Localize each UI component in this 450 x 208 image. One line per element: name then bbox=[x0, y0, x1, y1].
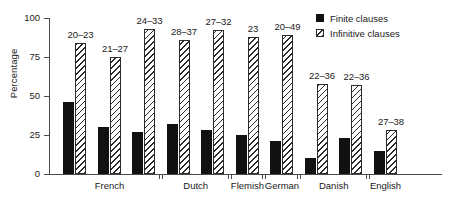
x-axis-group-separator bbox=[227, 174, 234, 179]
bar-infinitive-clauses bbox=[248, 37, 259, 174]
bar-finite-clauses bbox=[63, 102, 74, 174]
bar-infinitive-clauses bbox=[110, 57, 121, 174]
bar-infinitive-clauses bbox=[351, 85, 362, 174]
legend-label-infinitive-clauses: Infinitive clauses bbox=[330, 28, 400, 39]
y-axis-tick-label: 25 bbox=[0, 129, 40, 140]
bar-pair bbox=[305, 18, 329, 174]
bar-value-annotation: 27–32 bbox=[206, 16, 232, 27]
legend-item-infinitive-clauses: Infinitive clauses bbox=[316, 26, 444, 40]
bar-infinitive-clauses bbox=[282, 35, 293, 174]
bar-finite-clauses bbox=[167, 124, 178, 174]
x-axis-group-label-english: English bbox=[370, 180, 401, 191]
bar-value-annotation: 28–37 bbox=[171, 26, 197, 37]
bar-finite-clauses bbox=[236, 135, 247, 174]
bar-pair bbox=[270, 18, 294, 174]
x-axis-group-label-danish: Danish bbox=[319, 180, 349, 191]
x-axis-group-separator bbox=[158, 174, 165, 179]
bar-finite-clauses bbox=[201, 130, 212, 174]
bar-infinitive-clauses bbox=[75, 43, 86, 174]
x-axis-group-label-dutch: Dutch bbox=[183, 180, 208, 191]
bar-value-annotation: 23 bbox=[248, 23, 258, 34]
bar-pair bbox=[236, 18, 260, 174]
bar-infinitive-clauses bbox=[213, 30, 224, 174]
bar-finite-clauses bbox=[270, 141, 281, 174]
chart-legend: Finite clauses Infinitive clauses bbox=[316, 11, 444, 41]
x-axis-group-separator bbox=[365, 174, 372, 179]
bar-infinitive-clauses bbox=[317, 84, 328, 174]
x-axis-line bbox=[49, 174, 442, 175]
legend-swatch-hatched-icon bbox=[316, 29, 324, 37]
bar-finite-clauses bbox=[339, 138, 350, 174]
x-axis-group-separator bbox=[296, 174, 303, 179]
bar-pair bbox=[98, 18, 122, 174]
legend-swatch-solid-icon bbox=[316, 14, 324, 22]
bar-value-annotation: 24–33 bbox=[137, 15, 163, 26]
plot-area bbox=[49, 18, 442, 174]
bar-value-annotation: 20–23 bbox=[68, 29, 94, 40]
y-axis-tick-label: 0 bbox=[0, 168, 40, 179]
bar-finite-clauses bbox=[305, 158, 316, 174]
y-axis-tick-label: 75 bbox=[0, 51, 40, 62]
bar-infinitive-clauses bbox=[386, 130, 397, 174]
bar-value-annotation: 22–36 bbox=[344, 71, 370, 82]
y-axis-title: Percentage bbox=[8, 29, 19, 119]
y-axis-tick-label: 100 bbox=[0, 12, 40, 23]
x-axis-group-label-german: German bbox=[265, 180, 299, 191]
bar-value-annotation: 20–49 bbox=[275, 21, 301, 32]
y-axis-tick-label: 50 bbox=[0, 90, 40, 101]
bar-pair bbox=[132, 18, 156, 174]
x-axis-group-separator bbox=[261, 174, 268, 179]
bar-pair bbox=[167, 18, 191, 174]
bar-pair bbox=[339, 18, 363, 174]
bar-pair bbox=[201, 18, 225, 174]
x-axis-group-label-flemish: Flemish bbox=[231, 180, 264, 191]
bar-chart: Percentage 0255075100 FrenchDutchFlemish… bbox=[0, 0, 450, 208]
x-axis-group-label-french: French bbox=[95, 180, 125, 191]
bar-pair bbox=[63, 18, 87, 174]
y-axis-tick bbox=[44, 174, 50, 175]
bar-finite-clauses bbox=[132, 132, 143, 174]
bar-infinitive-clauses bbox=[144, 29, 155, 174]
bar-pair bbox=[374, 18, 398, 174]
bar-finite-clauses bbox=[98, 127, 109, 174]
bar-value-annotation: 27–38 bbox=[378, 116, 404, 127]
legend-item-finite-clauses: Finite clauses bbox=[316, 11, 444, 25]
bar-infinitive-clauses bbox=[179, 40, 190, 174]
bar-finite-clauses bbox=[374, 151, 385, 174]
bar-value-annotation: 21–27 bbox=[102, 43, 128, 54]
legend-label-finite-clauses: Finite clauses bbox=[330, 13, 388, 24]
bar-value-annotation: 22–36 bbox=[309, 70, 335, 81]
